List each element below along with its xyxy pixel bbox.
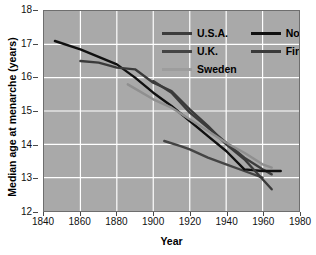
y-tick-mark [33, 145, 38, 146]
x-tick-label: 1940 [215, 216, 237, 227]
y-axis-title: Median age at menarche (years) [6, 17, 18, 217]
legend-label: Finland [286, 46, 300, 57]
x-tick-mark [190, 212, 191, 216]
legend-swatch-icon [251, 32, 281, 35]
legend-swatch-icon [251, 50, 281, 53]
x-tick-label: 1900 [142, 216, 164, 227]
legend: U.S.A. Norway U.K. Finland Sweden [162, 25, 300, 77]
legend-label: U.K. [197, 46, 218, 57]
y-tick-mark [33, 178, 38, 179]
y-tick-label: 16 [21, 72, 32, 82]
chart-figure: 12131415161718 Median age at menarche (y… [0, 0, 316, 255]
legend-label: U.S.A. [197, 28, 228, 39]
legend-entry: U.K. [162, 43, 237, 59]
x-tick-mark [300, 212, 301, 216]
legend-swatch-icon [162, 32, 192, 35]
x-tick-label: 1980 [289, 216, 311, 227]
x-axis-tick-labels: 18401860188019001920194019601980 [0, 214, 316, 230]
legend-swatch-icon [162, 50, 192, 53]
y-tick-label: 14 [21, 140, 32, 150]
legend-swatch-icon [162, 68, 192, 71]
legend-label: Norway [286, 28, 300, 39]
legend-label: Sweden [197, 64, 237, 75]
x-tick-mark [227, 212, 228, 216]
legend-entry: Finland [251, 43, 300, 59]
y-tick-label: 17 [21, 39, 32, 49]
x-tick-mark [80, 212, 81, 216]
y-tick-mark [33, 212, 38, 213]
y-tick-mark [33, 44, 38, 45]
x-tick-label: 1860 [69, 216, 91, 227]
x-tick-label: 1920 [179, 216, 201, 227]
y-tick-mark [33, 77, 38, 78]
y-tick-label: 18 [21, 5, 32, 15]
legend-entry: Sweden [162, 61, 237, 77]
x-tick-mark [263, 212, 264, 216]
y-tick-label: 13 [21, 173, 32, 183]
y-tick-mark [33, 111, 38, 112]
x-tick-label: 1880 [105, 216, 127, 227]
x-axis-title: Year [43, 235, 300, 247]
x-tick-mark [43, 212, 44, 216]
y-tick-mark [33, 10, 38, 11]
plot-area: U.S.A. Norway U.K. Finland Sweden [43, 10, 300, 212]
y-tick-label: 15 [21, 106, 32, 116]
x-tick-label: 1840 [32, 216, 54, 227]
x-tick-label: 1960 [252, 216, 274, 227]
legend-entry: U.S.A. [162, 25, 237, 41]
x-tick-mark [116, 212, 117, 216]
legend-entry: Norway [251, 25, 300, 41]
x-tick-mark [153, 212, 154, 216]
